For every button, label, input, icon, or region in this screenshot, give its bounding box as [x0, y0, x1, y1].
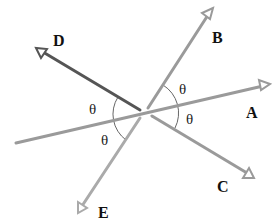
arrowhead-d-icon: [36, 48, 47, 58]
ray-e: [78, 118, 140, 213]
arrowhead-b-icon: [202, 8, 213, 19]
rays-angle-diagram: A B C D E θ θ θ θ: [0, 0, 273, 222]
ray-label-b: B: [212, 29, 223, 46]
ray-label-a: A: [246, 104, 258, 121]
angle-label-a-c: θ: [186, 111, 193, 127]
ray-label-d: D: [53, 32, 65, 49]
ray-a: [16, 80, 270, 143]
ray-label-e: E: [98, 204, 109, 221]
angle-label-b-a: θ: [179, 81, 186, 97]
arrowhead-a-icon: [259, 80, 270, 90]
angle-label-a-e: θ: [101, 132, 108, 148]
ray-c: [152, 116, 254, 178]
ray-label-c: C: [217, 178, 229, 195]
ray-d: [36, 48, 140, 110]
angle-label-d-a: θ: [89, 101, 96, 117]
